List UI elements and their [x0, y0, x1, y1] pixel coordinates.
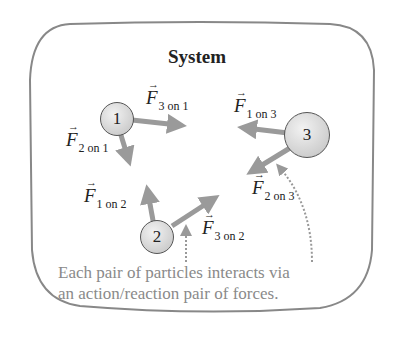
arrow-f1on3 [246, 128, 288, 133]
arrow-f2on3 [254, 148, 290, 170]
label-f3on2: F3 on 2 [202, 218, 245, 237]
caption: Each pair of particles interacts via an … [58, 262, 368, 304]
label-f2on1: F2 on 1 [66, 130, 109, 149]
particle-1-label: 1 [113, 109, 122, 129]
particle-3: 3 [284, 112, 330, 158]
particle-2-label: 2 [153, 227, 162, 247]
particle-2: 2 [140, 220, 174, 254]
label-f1on2: F1 on 2 [84, 186, 127, 205]
arrow-f2on1 [120, 132, 128, 158]
caption-line-1: Each pair of particles interacts via [58, 262, 368, 283]
caption-line-2: an action/reaction pair of forces. [58, 283, 368, 304]
label-f2on3: F2 on 3 [252, 178, 295, 197]
system-title: System [0, 46, 394, 68]
label-f3on1: F3 on 1 [146, 88, 189, 107]
particle-3-label: 3 [303, 125, 312, 145]
arrow-f3on1 [132, 120, 178, 125]
label-f1on3: F1 on 3 [234, 96, 277, 115]
